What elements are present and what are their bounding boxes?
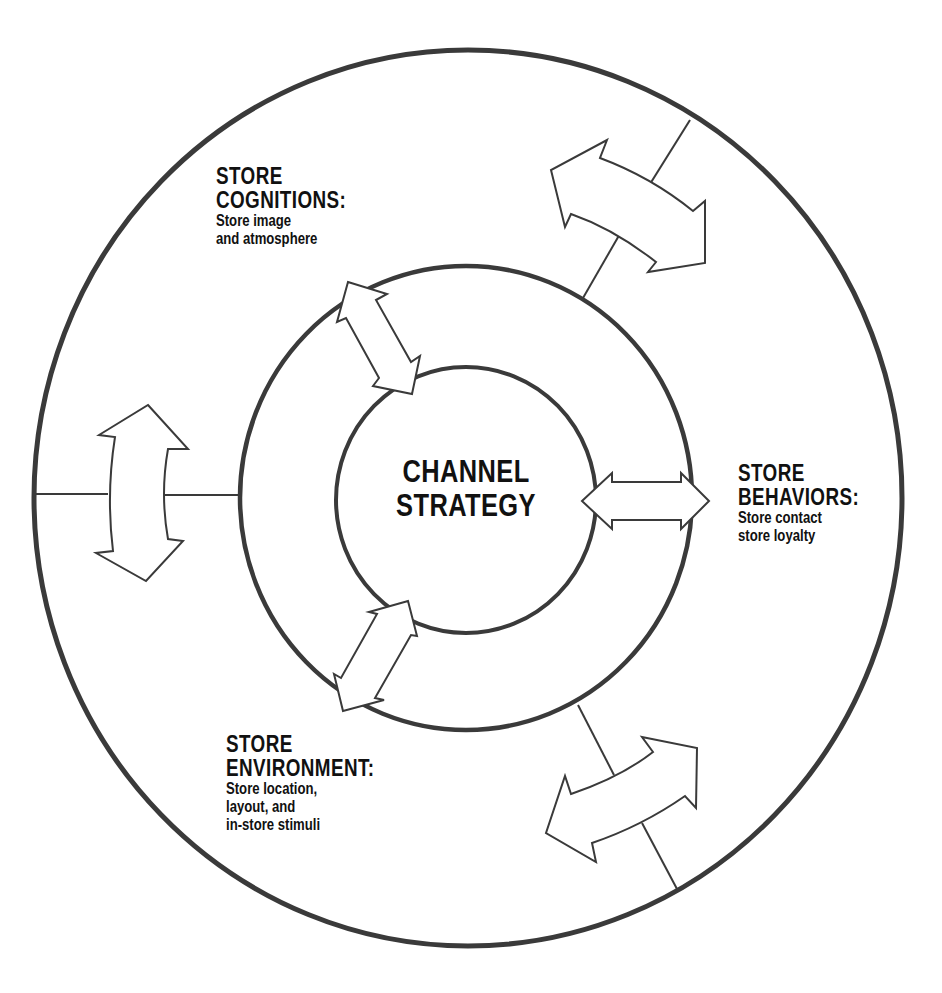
node-store-behaviors: STORE BEHAVIORS: Store contact store loy… — [738, 461, 886, 545]
double-arrow-icon — [337, 282, 420, 394]
node-desc: Store contact — [738, 509, 859, 527]
channel-strategy-diagram: CHANNEL STRATEGY STORE COGNITIONS: Store… — [0, 0, 942, 993]
center-label: CHANNEL STRATEGY — [366, 455, 566, 523]
double-arrow-icon — [334, 601, 417, 711]
node-desc: Store location, — [226, 780, 374, 798]
double-arrow-icon — [546, 737, 697, 862]
node-desc: layout, and — [226, 798, 374, 816]
node-title: ENVIRONMENT: — [226, 756, 374, 780]
center-line-1: CHANNEL — [384, 455, 548, 489]
node-title: BEHAVIORS: — [738, 485, 859, 509]
node-desc: Store image — [216, 212, 346, 230]
double-arrow-icon — [551, 140, 705, 272]
node-title: STORE — [216, 164, 346, 188]
double-arrow-icon — [582, 473, 709, 529]
center-line-2: STRATEGY — [384, 489, 548, 523]
node-title: STORE — [738, 461, 859, 485]
double-arrow-icon — [96, 405, 188, 581]
node-desc: and atmosphere — [216, 230, 346, 248]
node-title: COGNITIONS: — [216, 188, 346, 212]
node-store-environment: STORE ENVIRONMENT: Store location, layou… — [226, 732, 407, 834]
node-title: STORE — [226, 732, 374, 756]
node-desc: store loyalty — [738, 527, 859, 545]
node-store-cognitions: STORE COGNITIONS: Store image and atmosp… — [216, 164, 375, 248]
node-desc: in-store stimuli — [226, 816, 374, 834]
